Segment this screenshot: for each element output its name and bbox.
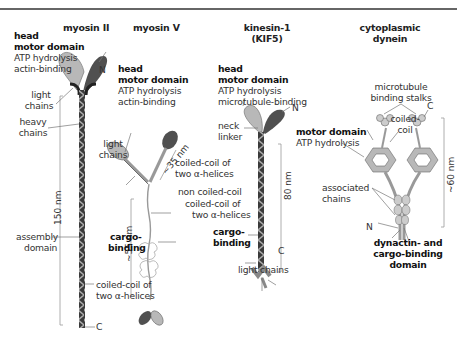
kinesin-head-label: head — [218, 63, 243, 74]
myosin-v-coiled-coil-1a: coiled-coil of — [175, 157, 230, 168]
dynein-dynactin-2: cargo-binding — [368, 248, 448, 259]
myosin-v-cargo-binding-2: binding — [108, 242, 146, 253]
myosin-ii-coiled-coil-1: coiled-coil of — [96, 279, 151, 290]
kinesin-length-80nm: 80 nm — [283, 171, 293, 200]
myosin-v-head-label: head — [118, 63, 143, 74]
myosin-v-cargo-binding-1: cargo- — [110, 231, 142, 242]
myosin-v-coiled-coil-1b: two α-helices — [175, 168, 234, 179]
myosin-ii-heavy-chains-1: heavy — [18, 116, 48, 127]
dynein-atp: ATP hydrolysis — [296, 137, 359, 148]
kinesin-cargo-binding-1: cargo- — [213, 226, 245, 237]
kinesin-motor-domain-label: motor domain — [218, 74, 288, 85]
myosin-v-atp-label: ATP hydrolysis — [118, 85, 181, 96]
dynein-c-terminus: C — [427, 100, 433, 111]
myosin-v-title: myosin V — [133, 22, 180, 33]
kinesin-n-terminus: N — [292, 102, 299, 113]
myosin-v-motor-domain-label: motor domain — [118, 74, 188, 85]
myosin-v-light-chains-2: chains — [96, 149, 130, 160]
myosin-ii-light-chains-1: light — [26, 89, 56, 100]
dynein-associated-2: chains — [322, 193, 350, 204]
dynein-associated-1: associated — [322, 182, 369, 193]
myosin-ii-atp-label: ATP hydrolysis — [14, 52, 77, 63]
dynein-dynactin-3: domain — [368, 259, 448, 270]
kinesin-cargo-binding-2: binding — [213, 237, 251, 248]
myosin-v-actin-label: actin-binding — [118, 96, 176, 107]
dynein-dynactin-1: dynactin- and — [368, 237, 448, 248]
myosin-ii-heavy-chains-2: chains — [16, 127, 50, 138]
myosin-ii-head-label: head — [14, 30, 39, 41]
myosin-ii-title: myosin II — [63, 22, 109, 33]
myosin-v-coiled-coil-2a: coiled-coil of — [185, 198, 240, 209]
myosin-ii-motor-domain-label: motor domain — [14, 41, 84, 52]
myosin-v-coiled-coil-2b: two α-helices — [192, 209, 251, 220]
kinesin-c-terminus: C — [278, 245, 284, 256]
myosin-ii-length-150nm: 150 nm — [53, 190, 63, 225]
dynein-title-2: dynein — [355, 33, 425, 44]
kinesin-atp-label: ATP hydrolysis — [218, 85, 281, 96]
myosin-ii-coiled-coil-2: two α-helices — [96, 290, 155, 301]
myosin-ii-light-chains-2: chains — [22, 100, 56, 111]
myosin-ii-assembly-2: domain — [24, 242, 57, 253]
myosin-ii-c-terminus: C — [96, 321, 102, 332]
kinesin-title-1: kinesin-1 — [237, 22, 297, 33]
dynein-stalks-1: microtubule — [365, 81, 437, 92]
myosin-ii-actin-label: actin-binding — [14, 63, 72, 74]
kinesin-light-chains: light chains — [238, 264, 289, 275]
kinesin-title-2: (KIF5) — [237, 33, 297, 44]
myosin-ii-n-terminus: N — [99, 64, 106, 75]
kinesin-neck-1: neck — [218, 120, 239, 131]
myosin-v-non-coiled: non coiled-coil — [178, 186, 242, 197]
dynein-coiled-2: coil — [388, 124, 422, 135]
dynein-title-1: cytoplasmic — [355, 22, 425, 33]
dynein-motor-domain: motor domain — [296, 126, 366, 137]
dynein-n-terminus: N — [366, 221, 373, 232]
myosin-v-light-chains-1: light — [100, 138, 126, 149]
kinesin-neck-2: linker — [218, 131, 242, 142]
myosin-ii-assembly-1: assembly — [16, 231, 58, 242]
dynein-coiled-1: coiled- — [388, 113, 422, 124]
dynein-length-60nm: ~60 nm — [446, 157, 456, 193]
